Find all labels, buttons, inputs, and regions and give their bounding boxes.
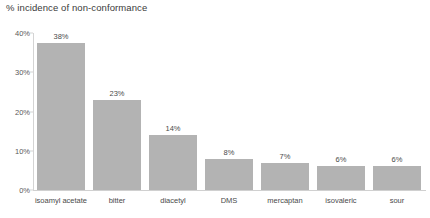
x-axis-tick-label: mercaptan [257,196,313,205]
y-axis-tick-mark [30,190,33,191]
x-axis-tick-label: diacetyl [145,196,201,205]
x-axis-tick-label: isovaleric [313,196,369,205]
y-axis-tick-mark [30,33,33,34]
bar-column: 8% [205,33,253,190]
bar-column: 6% [373,33,421,190]
bar-chart: % incidence of non-conformance 0%10%20%3… [0,0,430,218]
bar [373,166,421,190]
bar [205,159,253,190]
bar-column: 7% [261,33,309,190]
bar-value-label: 6% [392,156,403,164]
x-axis-tick-label: bitter [89,196,145,205]
y-axis-tick-mark [30,111,33,112]
bar-value-label: 7% [280,153,291,161]
bar-column: 38% [37,33,85,190]
y-axis-tick-label: 0% [0,186,30,195]
bar-value-label: 8% [224,149,235,157]
bar [37,43,85,190]
x-axis-tick-label: isoamyl acetate [33,196,89,205]
y-axis-tick-label: 30% [0,68,30,77]
bar-value-label: 38% [53,33,68,41]
bar-value-label: 14% [165,125,180,133]
y-axis-tick-label: 40% [0,29,30,38]
bar-value-label: 6% [336,156,347,164]
chart-title: % incidence of non-conformance [6,2,147,13]
x-axis-tick-label: DMS [201,196,257,205]
bar-column: 23% [93,33,141,190]
x-axis-tick-label: sour [369,196,425,205]
y-axis-line [33,33,34,190]
y-axis-tick-label: 10% [0,146,30,155]
y-axis-tick-mark [30,150,33,151]
bar-column: 14% [149,33,197,190]
bar [317,166,365,190]
y-axis-tick-label: 20% [0,107,30,116]
bar [93,100,141,190]
bar-value-label: 23% [109,90,124,98]
bar-column: 6% [317,33,365,190]
x-axis-line [33,190,426,191]
y-axis-tick-mark [30,72,33,73]
bar [149,135,197,190]
bar [261,163,309,190]
